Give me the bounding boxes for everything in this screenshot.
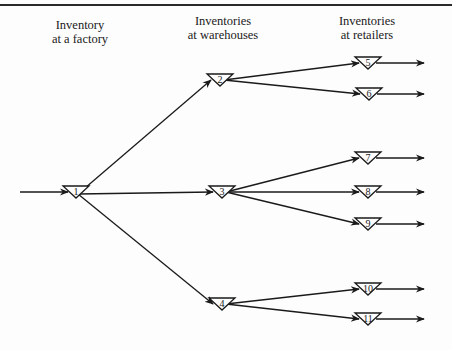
node-label: 1 — [74, 186, 79, 197]
edge-1-3 — [78, 192, 213, 194]
nodes: 1234567891011 — [63, 57, 382, 325]
node-label: 5 — [366, 57, 371, 68]
edge-1-4 — [78, 194, 213, 304]
edge-2-5 — [224, 63, 359, 80]
node-label: 6 — [367, 88, 372, 99]
inventory-network-diagram: Inventory at a factory Inventories at wa… — [0, 0, 452, 350]
edge-4-11 — [226, 304, 359, 319]
node-label: 2 — [218, 74, 223, 85]
node-label: 10 — [363, 283, 373, 294]
node-label: 9 — [366, 218, 371, 229]
node-label: 8 — [366, 186, 371, 197]
edge-1-2 — [78, 80, 211, 194]
edge-3-7 — [226, 158, 359, 192]
node-label: 4 — [220, 298, 225, 309]
network-graph: 1234567891011 — [0, 0, 452, 350]
node-label: 11 — [363, 313, 373, 324]
edge-2-6 — [224, 80, 360, 94]
edge-4-10 — [226, 289, 359, 304]
node-label: 3 — [220, 186, 225, 197]
node-label: 7 — [366, 152, 371, 163]
edge-3-9 — [226, 192, 359, 224]
